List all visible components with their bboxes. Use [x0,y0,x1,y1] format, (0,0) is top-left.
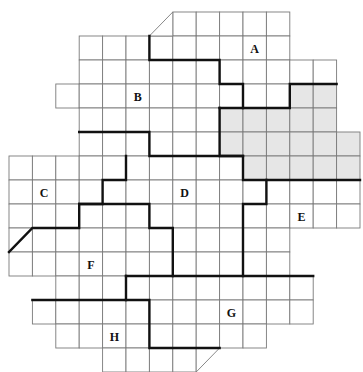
grid-cell [149,180,172,204]
shaded-grid-cell [243,108,266,132]
grid-cell [173,252,196,276]
grid-cell [79,276,102,300]
grid-cell [149,132,172,156]
grid-cell [220,276,243,300]
shaded-grid-cell [290,84,313,108]
grid-cell [243,60,266,84]
grid-cell [149,276,172,300]
grid-cell [196,324,219,348]
grid-cell [290,180,313,204]
grid-cell [79,60,102,84]
grid-cell [126,180,149,204]
grid-cell [220,84,243,108]
region-label-f: F [87,258,94,272]
grid-cell [196,36,219,60]
region-label-d: D [180,186,189,200]
shaded-grid-cell [313,132,336,156]
grid-cell [56,84,79,108]
grid-cell [32,300,55,324]
grid-cell [103,84,126,108]
grid-cell [337,180,360,204]
region-label-g: G [227,306,236,320]
grid-cell [196,12,219,36]
grid-cell [126,36,149,60]
grid-cell [32,204,55,228]
grid-cell [9,180,32,204]
grid-cell [126,132,149,156]
grid-cell [9,204,32,228]
grid-cell [196,180,219,204]
grid-cell [220,156,243,180]
grid-cell [56,252,79,276]
grid-cell [173,84,196,108]
grid-cell [126,60,149,84]
grid-cell [79,204,102,228]
grid-cell [149,348,172,372]
grid-cell [149,228,172,252]
grid-cell [32,228,55,252]
grid-cell [196,276,219,300]
grid-cell [56,300,79,324]
grid-cell [56,324,79,348]
shaded-grid-cell [266,132,289,156]
grid-cell [173,300,196,324]
grid-cell [9,252,32,276]
bottom-corner-cut-triangle [196,348,219,372]
grid-cell [220,228,243,252]
grid-cell [220,60,243,84]
grid-cell [266,36,289,60]
grid-cell [126,252,149,276]
grid-cell [173,228,196,252]
grid-cell [243,204,266,228]
grid-cell [196,60,219,84]
grid-cell [103,348,126,372]
grid-cell [266,204,289,228]
grid-cell [266,60,289,84]
top-corner-cut-triangle [149,12,172,36]
region-grid-map: ABCDEFGH [0,0,363,372]
grid-cell [196,84,219,108]
grid-cell [149,324,172,348]
grid-cell [149,36,172,60]
grid-cell [266,228,289,252]
grid-cell [79,84,102,108]
region-label-e: E [297,210,305,224]
grid-cell [79,300,102,324]
grid-cell [173,132,196,156]
grid-cell [126,300,149,324]
grid-cell [243,252,266,276]
grid-cell [149,204,172,228]
grid-cell [79,132,102,156]
shaded-grid-cell [313,84,336,108]
grid-cell [32,156,55,180]
grid-cell [149,252,172,276]
grid-cell [243,84,266,108]
grid-cell [173,60,196,84]
grid-cell [220,12,243,36]
grid-cell [290,276,313,300]
grid-cell [149,108,172,132]
grid-cell [220,204,243,228]
grid-cell [196,204,219,228]
grid-cell [32,252,55,276]
grid-cell [56,204,79,228]
region-label-a: A [250,42,259,56]
grid-cell [79,156,102,180]
grid-cell [79,108,102,132]
grid-cell [290,300,313,324]
grid-cell [266,12,289,36]
shaded-grid-cell [266,108,289,132]
grid-cell [313,180,336,204]
grid-cell [196,108,219,132]
grid-cell [196,156,219,180]
grid-cell [79,36,102,60]
grid-cell [243,276,266,300]
grid-cell [196,300,219,324]
shaded-grid-cell [290,156,313,180]
grid-cell [126,156,149,180]
grid-cell [149,60,172,84]
grid-cell [196,228,219,252]
grid-cell [196,132,219,156]
grid-cell [56,156,79,180]
region-label-h: H [110,330,120,344]
